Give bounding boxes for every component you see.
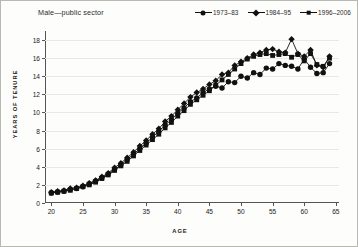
data-point [182,108,187,113]
x-tick-label: 45 [206,208,213,215]
data-point [226,72,231,77]
data-point [264,65,269,70]
data-point [112,168,117,173]
data-point [269,46,275,52]
series-line [51,59,329,193]
legend-marker-diamond-icon [248,8,265,17]
legend-marker-square-icon [300,8,317,17]
data-point [125,159,130,164]
x-tick-mark [336,203,337,206]
data-point [144,143,149,148]
data-point [245,75,250,80]
data-point [257,72,262,77]
data-point [270,66,275,71]
chart-figure: Male—public sector 1973–831984–951996–20… [0,0,358,247]
x-tick-label: 65 [332,208,339,215]
data-point [264,51,269,56]
data-point [226,79,231,84]
data-point [296,52,301,57]
x-tick-mark [178,203,179,206]
x-tick-mark [304,203,305,206]
data-point [62,189,67,194]
data-point [276,61,281,66]
series-circle [49,56,333,195]
legend-entry-1: 1973–83 [195,8,239,17]
data-point [131,154,136,159]
legend-entry-2: 1984–95 [248,8,292,17]
legend-label: 1984–95 [266,9,292,16]
x-tick-mark [51,203,52,206]
x-axis-label: AGE [1,228,358,234]
x-tick-label: 40 [174,208,181,215]
series-line [51,39,329,192]
data-point [295,66,300,71]
y-tick-label: 18 [33,37,40,44]
data-point [100,176,105,181]
plot-area-wrapper: YEARS OF TENURE AGE 024681012141618 2025… [1,23,358,247]
data-point [277,52,282,57]
data-point [283,63,288,68]
data-point [314,71,319,76]
legend-label: 1973–83 [213,9,239,16]
data-point [206,81,212,87]
data-point [163,125,168,130]
x-tick-mark [273,203,274,206]
data-point [219,85,224,90]
data-point [320,70,325,75]
data-point [288,36,294,42]
data-point [49,191,54,196]
data-point [289,55,294,60]
x-tick-label: 60 [301,208,308,215]
legend-label: 1996–2006 [318,9,351,16]
data-point [194,89,200,95]
data-point [87,182,92,187]
series-layer [45,31,339,203]
chart-title: Male—public sector [38,8,104,17]
y-tick-label: 8 [36,127,40,134]
x-tick-label: 25 [79,208,86,215]
data-point [137,148,142,153]
data-point [93,180,98,185]
data-point [156,132,161,137]
data-point [232,80,237,85]
data-point [55,190,60,195]
data-point [314,62,319,67]
data-point [118,163,123,168]
y-tick-label: 14 [33,73,40,80]
data-point [175,114,180,119]
data-point [289,64,294,69]
data-point [106,173,111,178]
data-point [251,70,256,75]
x-tick-mark [241,203,242,206]
data-point [150,137,155,142]
data-point [201,93,206,98]
data-point [207,88,212,93]
data-point [188,102,193,107]
data-point [220,77,225,82]
data-point [283,51,288,56]
x-tick-label: 20 [48,208,55,215]
data-point [232,67,237,72]
x-tick-mark [115,203,116,206]
chart-header: Male—public sector 1973–831984–951996–20… [1,1,358,25]
data-point [194,97,199,102]
data-point [169,120,174,125]
y-axis-label: YEARS OF TENURE [12,66,18,142]
y-tick-label: 2 [36,181,40,188]
y-tick-label: 4 [36,163,40,170]
data-point [251,54,256,59]
x-tick-label: 30 [111,208,118,215]
series-line [51,54,329,193]
data-point [327,61,332,66]
data-point [213,83,218,88]
data-point [302,58,307,63]
y-tick-label: 0 [36,200,40,207]
x-tick-mark [83,203,84,206]
data-point [327,56,332,61]
data-point [308,65,313,70]
legend-entry-3: 1996–2006 [300,8,351,17]
y-tick-label: 10 [33,109,40,116]
y-tick-label: 16 [33,55,40,62]
x-tick-mark [209,203,210,206]
data-point [245,57,250,62]
